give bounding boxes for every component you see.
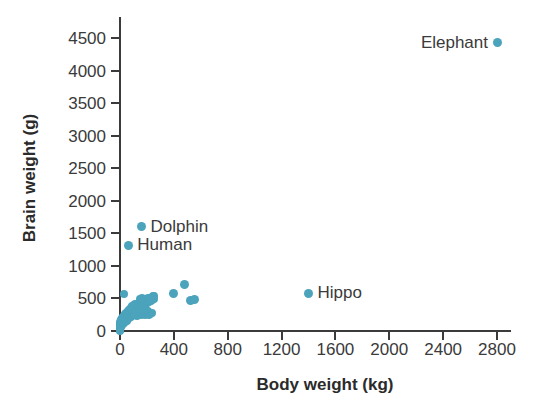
x-tick-label: 800 xyxy=(214,341,242,358)
x-tick-label: 1200 xyxy=(263,341,301,358)
x-tick xyxy=(496,332,498,340)
y-tick xyxy=(111,102,120,104)
y-tick-label: 1500 xyxy=(68,225,106,242)
scatter-point xyxy=(148,296,156,304)
y-tick xyxy=(111,135,120,137)
x-tick-label: 0 xyxy=(115,341,124,358)
scatter-point xyxy=(304,289,313,298)
y-tick-label: 1000 xyxy=(68,258,106,275)
y-tick-label: 4000 xyxy=(68,63,106,80)
y-tick xyxy=(111,232,120,234)
y-axis-line xyxy=(119,17,121,332)
y-tick-label: 3000 xyxy=(68,128,106,145)
scatter-point xyxy=(116,327,124,335)
x-tick-label: 400 xyxy=(160,341,188,358)
y-tick-label: 3500 xyxy=(68,95,106,112)
x-tick xyxy=(281,332,283,340)
x-tick xyxy=(388,332,390,340)
x-tick xyxy=(334,332,336,340)
y-tick-label: 2000 xyxy=(68,193,106,210)
scatter-point xyxy=(493,38,502,47)
y-tick xyxy=(111,200,120,202)
scatter-point xyxy=(124,241,133,250)
x-tick-label: 2000 xyxy=(370,341,408,358)
x-tick-label: 1600 xyxy=(317,341,355,358)
x-tick-label: 2400 xyxy=(424,341,462,358)
scatter-point xyxy=(169,289,178,298)
scatter-plot-figure: 050010001500200025003000350040004500 040… xyxy=(0,0,540,419)
scatter-point xyxy=(137,222,146,231)
y-tick-label: 4500 xyxy=(68,30,106,47)
point-label-elephant: Elephant xyxy=(421,34,488,51)
scatter-point xyxy=(180,280,189,289)
x-axis-title: Body weight (kg) xyxy=(0,375,540,395)
y-tick-label: 0 xyxy=(97,323,106,340)
y-tick xyxy=(111,167,120,169)
y-tick xyxy=(111,37,120,39)
x-axis-line xyxy=(119,330,511,332)
y-axis-title: Brain weight (g) xyxy=(20,68,40,288)
x-tick-label: 2800 xyxy=(478,341,516,358)
y-tick xyxy=(111,297,120,299)
point-label-human: Human xyxy=(137,236,192,253)
y-tick xyxy=(111,70,120,72)
y-tick xyxy=(111,265,120,267)
scatter-point xyxy=(120,290,128,298)
point-label-dolphin: Dolphin xyxy=(151,218,209,235)
y-tick-label: 2500 xyxy=(68,160,106,177)
y-tick-label: 500 xyxy=(78,290,106,307)
x-tick xyxy=(173,332,175,340)
x-tick xyxy=(442,332,444,340)
x-tick xyxy=(227,332,229,340)
point-label-hippo: Hippo xyxy=(318,284,362,301)
scatter-point xyxy=(190,295,199,304)
